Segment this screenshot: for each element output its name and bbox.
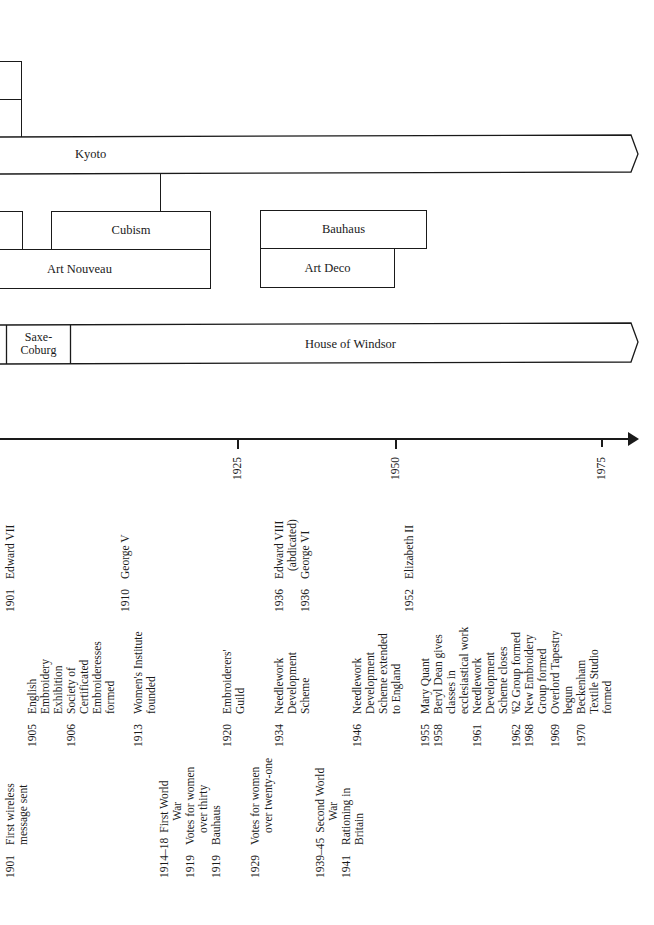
- event-year: 1970: [575, 714, 614, 747]
- event-year: 1914–18: [158, 833, 184, 878]
- event-text-line: Scheme: [299, 652, 312, 714]
- monarch-1952: 1952Elizabeth II: [403, 525, 416, 612]
- timeline-event: 1952Elizabeth II: [403, 525, 416, 612]
- event-text-line: Development: [364, 633, 377, 714]
- event-year: 1929: [249, 845, 275, 878]
- event-text-line: formed: [601, 649, 614, 714]
- art-deco-label: Art Deco: [304, 261, 350, 276]
- event-text-line: Overlord Tapestry: [549, 630, 562, 714]
- event-text-line: Needlework: [471, 647, 484, 714]
- event-year: 1919: [210, 845, 223, 878]
- tick-1975: [601, 439, 603, 447]
- event-description: Rationing inBritain: [340, 788, 366, 845]
- event-description: '62 Group formed: [510, 632, 523, 714]
- embroidery-1905-1906: 1905 EnglishEmbroideryExhibition 1906 So…: [26, 641, 117, 747]
- event-text-line: message sent: [17, 783, 30, 845]
- event-text-line: Guild: [234, 649, 247, 714]
- event-description: Overlord Tapestrybegun: [549, 630, 575, 714]
- timeline-event: 1946 NeedleworkDevelopmentScheme extende…: [351, 633, 403, 747]
- timeline-event: 1941 Rationing inBritain: [340, 768, 366, 878]
- event-text-line: Scheme extended: [377, 633, 390, 714]
- event-year: 1936: [299, 579, 312, 612]
- event-year: 1920: [221, 714, 247, 747]
- event-text-line: Embroidery: [39, 659, 52, 714]
- event-text-line: Mary Quant: [419, 658, 432, 714]
- time-axis-line: [0, 438, 630, 440]
- art-deco-box: Art Deco: [260, 248, 395, 288]
- event-text-line: '62 Group formed: [510, 632, 523, 714]
- event-text-line: over thirty: [197, 767, 210, 845]
- event-year: 1958: [432, 714, 471, 747]
- event-description: Bauhaus: [210, 805, 223, 845]
- event-text-line: Society of: [65, 641, 78, 714]
- event-text-line: Certificated: [78, 641, 91, 714]
- event-text-line: Votes for women: [249, 758, 262, 845]
- event-year: 1905: [26, 714, 65, 747]
- event-text-line: classes in: [445, 627, 458, 714]
- event-description: Edward VIII(abdicated): [273, 519, 299, 579]
- event-text-line: Edward VII: [4, 525, 17, 579]
- event-text-line: Exhibition: [52, 659, 65, 714]
- monarch-1936-edward: 1936Edward VIII(abdicated) 1936George VI: [273, 519, 312, 612]
- timeline-event: 1939–45 Second WorldWar: [314, 768, 340, 878]
- event-year: 1969: [549, 714, 575, 747]
- event-year: 1962: [510, 714, 523, 747]
- event-description: New EmbroideryGroup formed: [523, 634, 549, 714]
- event-description: Second WorldWar: [314, 768, 340, 833]
- axis-arrow-icon: [628, 432, 640, 446]
- event-text-line: War: [327, 768, 340, 833]
- event-year: 1934: [273, 714, 312, 747]
- event-text-line: Needlework: [351, 633, 364, 714]
- event-description: First WorldWar: [158, 781, 184, 833]
- timeline-event: 1920 Embroiderers'Guild: [221, 649, 247, 747]
- event-text-line: Development: [484, 647, 497, 714]
- cubism-box: Cubism: [51, 211, 211, 250]
- monarch-1910: 1910George V: [119, 534, 132, 612]
- event-text-line: Needlework: [273, 652, 286, 714]
- event-description: NeedleworkDevelopmentScheme extendedto E…: [351, 633, 403, 714]
- tick-1925: [237, 439, 239, 449]
- event-text-line: to England: [390, 633, 403, 714]
- timeline-event: 1936George VI: [299, 519, 312, 612]
- event-text-line: Women's Institute: [132, 631, 145, 714]
- bauhaus-label: Bauhaus: [322, 222, 365, 237]
- timeline-event: 1919 Votes for womenover thirty: [184, 767, 210, 878]
- event-text-line: Edward VIII: [273, 519, 286, 579]
- event-text-line: Embroideresses: [91, 641, 104, 714]
- event-description: George VI: [299, 531, 312, 579]
- cubism-label: Cubism: [112, 223, 151, 238]
- event-text-line: formed: [104, 641, 117, 714]
- event-text-line: First wireless: [4, 783, 17, 845]
- saxe-coburg-line-2: Coburg: [7, 344, 70, 357]
- bracket-mid-line: [0, 99, 22, 100]
- event-year: 1939–45: [314, 833, 340, 878]
- event-text-line: War: [171, 781, 184, 833]
- event-text-line: founded: [145, 631, 158, 714]
- event-text-line: George V: [119, 534, 132, 579]
- event-year: 1910: [119, 579, 132, 612]
- timeline-event: 1961 NeedleworkDevelopmentScheme closes: [471, 627, 510, 747]
- timeline-event: 1913 Women's Institutefounded: [132, 631, 158, 747]
- event-year: 1913: [132, 714, 158, 747]
- event-text-line: Beryl Dean gives: [432, 627, 445, 714]
- world-1939-1941: 1939–45 Second WorldWar 1941 Rationing i…: [314, 768, 366, 878]
- event-description: Elizabeth II: [403, 525, 416, 579]
- event-text-line: (abdicated): [286, 519, 299, 579]
- tick-label-1950: 1950: [389, 457, 401, 480]
- event-year: 1941: [340, 845, 366, 878]
- prior-movement-box: [0, 211, 23, 250]
- timeline-event: 1969 Overlord Tapestrybegun: [549, 627, 575, 747]
- event-description: NeedleworkDevelopmentScheme closes: [471, 647, 510, 714]
- embroidery-1934: 1934 NeedleworkDevelopmentScheme: [273, 652, 312, 747]
- timeline-event: 1970 BeckenhamTextile Studioformed: [575, 627, 614, 747]
- event-text-line: begun: [562, 630, 575, 714]
- event-description: Edward VII: [4, 525, 17, 579]
- event-text-line: Beckenham: [575, 649, 588, 714]
- event-text-line: Bauhaus: [210, 805, 223, 845]
- event-description: Votes for womenover thirty: [184, 767, 210, 845]
- timeline-event: 1901Edward VII: [4, 525, 17, 612]
- event-text-line: George VI: [299, 531, 312, 579]
- timeline-event: 1901 First wirelessmessage sent: [4, 783, 30, 878]
- timeline-event: 1919 Bauhaus: [210, 767, 223, 878]
- event-text-line: Group formed: [536, 634, 549, 714]
